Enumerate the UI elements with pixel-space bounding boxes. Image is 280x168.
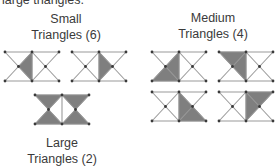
large-group-subtitle: Triangles (2) bbox=[27, 152, 97, 166]
small-triangle-figure-1 bbox=[5, 52, 59, 81]
medium-triangle-figure-3 bbox=[152, 92, 206, 121]
large-triangle-figure bbox=[35, 95, 89, 124]
medium-triangle-figure-4 bbox=[219, 92, 273, 121]
medium-triangle-figure-1 bbox=[152, 52, 206, 81]
figure-edges bbox=[5, 52, 59, 81]
medium-group-title: Medium bbox=[191, 11, 235, 25]
small-group-subtitle: Triangles (6) bbox=[31, 28, 101, 42]
shaded-triangle bbox=[99, 52, 113, 81]
medium-group-subtitle: Triangles (4) bbox=[178, 27, 248, 41]
figure-edges bbox=[72, 52, 126, 81]
small-triangle-figure-2 bbox=[72, 52, 126, 81]
intro-text: large triangles. bbox=[2, 0, 84, 7]
large-group-title: Large bbox=[46, 136, 78, 150]
medium-triangle-figure-2 bbox=[219, 52, 273, 81]
small-group-title: Small bbox=[50, 12, 81, 26]
shaded-triangle bbox=[19, 52, 33, 81]
